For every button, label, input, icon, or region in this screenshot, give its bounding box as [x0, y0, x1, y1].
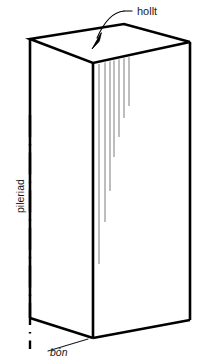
label-hollt: hollt	[137, 5, 157, 17]
pillar-split-figure: hollt pileriad bón	[0, 0, 202, 361]
label-pileriad: pileriad	[14, 179, 26, 213]
left-face	[30, 39, 93, 338]
label-bon: bón	[50, 346, 68, 358]
diagram-canvas: hollt pileriad bón	[0, 0, 202, 361]
right-face	[93, 42, 190, 338]
